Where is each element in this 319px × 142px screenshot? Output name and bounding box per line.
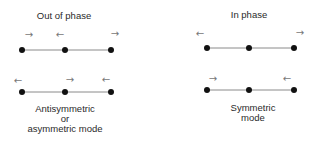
- mass-dot: [62, 89, 68, 95]
- caption-line: mode: [241, 112, 265, 123]
- mass-dot: [19, 89, 25, 95]
- mass-dot: [19, 47, 25, 53]
- row-2: → ←: [204, 73, 297, 93]
- arrow-right-icon: →: [209, 73, 217, 84]
- panel-in-phase: In phase ← → → ← Symmetric mode: [196, 9, 304, 123]
- mass-dot: [108, 89, 114, 95]
- panel-out-of-phase: Out of phase → ← → ← → ← Antisymmetric o…: [14, 10, 119, 134]
- mass-dot: [108, 47, 114, 53]
- mass-dot: [62, 47, 68, 53]
- row-1: ← →: [196, 27, 304, 51]
- mode-diagram: Out of phase → ← → ← → ← Antisymmetric o…: [0, 0, 319, 142]
- panel-title: In phase: [231, 9, 267, 20]
- caption-line: asymmetric mode: [28, 123, 103, 134]
- mass-dot: [204, 87, 210, 93]
- mass-dot: [291, 87, 297, 93]
- arrow-left-icon: ←: [56, 29, 64, 40]
- arrow-left-icon: ←: [14, 75, 22, 86]
- mass-dot: [291, 45, 297, 51]
- arrow-right-icon: →: [66, 74, 74, 85]
- mass-dot: [246, 45, 252, 51]
- arrow-right-icon: →: [111, 28, 119, 39]
- arrow-left-icon: ←: [196, 28, 204, 39]
- panel-title: Out of phase: [37, 10, 91, 21]
- mass-dot: [204, 45, 210, 51]
- arrow-left-icon: ←: [283, 73, 291, 84]
- row-1: → ← →: [19, 28, 119, 53]
- mass-dot: [246, 87, 252, 93]
- arrow-right-icon: →: [296, 27, 304, 38]
- arrow-left-icon: ←: [102, 74, 110, 85]
- arrow-right-icon: →: [25, 29, 33, 40]
- row-2: ← → ←: [14, 74, 114, 95]
